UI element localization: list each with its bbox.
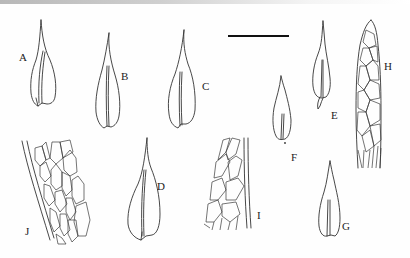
panel-label-b: B (121, 71, 128, 82)
panel-label-i: I (257, 210, 261, 221)
panel-label-f: F (291, 152, 297, 163)
leaf-h-drawing (356, 20, 381, 168)
leaf-b-drawing (96, 33, 120, 128)
leaf-f-drawing (273, 76, 291, 144)
leaf-g-drawing (319, 161, 340, 236)
panel-label-a: A (19, 52, 27, 63)
leaf-c-drawing (168, 30, 195, 128)
panel-label-e: E (331, 110, 338, 121)
panel-label-c: C (202, 81, 209, 92)
leaf-j-drawing (22, 140, 90, 244)
leaf-d-drawing (128, 138, 160, 240)
leaf-e-drawing (313, 21, 331, 109)
leaf-i-drawing (204, 138, 251, 230)
panel-label-h: H (384, 61, 392, 72)
botanical-figure: A B C D E F G H I J (0, 0, 410, 258)
leaf-a-drawing (31, 20, 56, 106)
panel-label-g: G (342, 221, 350, 232)
panel-label-d: D (157, 181, 165, 192)
panel-label-j: J (25, 226, 29, 237)
